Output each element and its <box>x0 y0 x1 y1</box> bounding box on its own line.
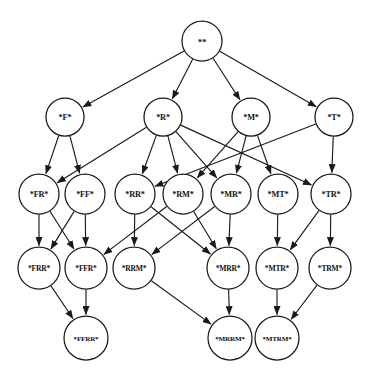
node-label: *MRR* <box>216 264 241 273</box>
graph-edge <box>168 136 178 173</box>
graph-node[interactable]: *M* <box>232 98 270 136</box>
graph-node[interactable]: *FRR* <box>18 247 60 289</box>
node-label: *RRM* <box>122 264 147 273</box>
graph-edge <box>70 136 80 173</box>
node-label: *RR* <box>125 190 145 199</box>
graph-node[interactable]: *T* <box>315 98 353 136</box>
graph-node[interactable]: *FFR* <box>65 247 107 289</box>
graph-edge <box>46 135 59 173</box>
graph-node[interactable]: *MRR* <box>207 247 249 289</box>
node-label: *MT* <box>268 190 289 199</box>
graph-edge <box>229 289 230 314</box>
node-label: *MTRM* <box>262 335 292 343</box>
graph-node[interactable]: *MT* <box>258 174 298 214</box>
graph-node[interactable]: *FR* <box>19 174 59 214</box>
node-label: *T* <box>327 113 340 122</box>
node-label: *MRRM* <box>215 335 245 343</box>
graph-node[interactable]: *RRM* <box>113 247 155 289</box>
graph-diagram: ***F**R**M**T**FR**FF**RR**RM**MR**MT**T… <box>0 0 369 377</box>
node-label: *TRM* <box>318 264 343 273</box>
graph-edge <box>291 285 317 319</box>
graph-edge <box>332 136 333 172</box>
graph-edge <box>142 135 156 173</box>
node-label: *TR* <box>321 190 340 199</box>
graph-edge <box>172 59 192 99</box>
graph-node[interactable]: *RM* <box>163 174 203 214</box>
node-label: *FF* <box>76 190 94 199</box>
node-label: *FR* <box>30 190 49 199</box>
node-label: *FFR* <box>75 264 97 273</box>
graph-node[interactable]: *R* <box>144 98 182 136</box>
graph-edge <box>220 51 316 107</box>
graph-node[interactable]: *MR* <box>211 174 251 214</box>
graph-node[interactable]: *MRRM* <box>208 316 252 360</box>
graph-node[interactable]: *RR* <box>115 174 155 214</box>
node-label: *MR* <box>220 190 241 199</box>
graph-edge <box>197 132 238 178</box>
graph-node[interactable]: *F* <box>46 98 84 136</box>
graph-node[interactable]: *TR* <box>311 174 351 214</box>
node-label: *F* <box>59 113 72 122</box>
graph-edge <box>229 214 230 245</box>
node-label: *MTR* <box>265 264 290 273</box>
graph-edge <box>257 135 270 173</box>
graph-edge <box>213 58 240 100</box>
graph-node[interactable]: *MTRM* <box>255 316 299 360</box>
graph-edge <box>51 286 73 319</box>
node-layer: ***F**R**M**T**FR**FF**RR**RM**MR**MT**T… <box>18 21 353 360</box>
graph-edge <box>151 281 211 324</box>
node-label: *FRR* <box>28 264 51 273</box>
node-label: ** <box>198 37 207 47</box>
node-label: *FFRR* <box>74 335 99 343</box>
graph-node[interactable]: *TRM* <box>309 247 351 289</box>
graph-node[interactable]: *FFRR* <box>64 316 108 360</box>
graph-node[interactable]: *MTR* <box>256 247 298 289</box>
graph-node[interactable]: *FF* <box>65 174 105 214</box>
graph-node[interactable]: ** <box>182 21 222 61</box>
node-label: *M* <box>243 113 259 122</box>
node-label: *RM* <box>172 190 193 199</box>
graph-edge <box>290 211 319 250</box>
node-label: *R* <box>156 113 170 122</box>
